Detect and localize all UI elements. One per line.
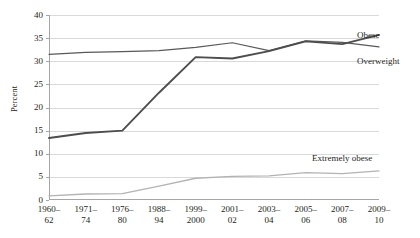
- series-label-obese: Obese: [357, 31, 380, 40]
- y-tick-label: 10: [21, 149, 43, 158]
- y-tick-label: 35: [21, 34, 43, 43]
- y-tick-mark: [46, 200, 49, 201]
- x-tick-label: 2009–10: [356, 204, 402, 225]
- line-chart: Percent 0510152025303540 1960–621971–741…: [0, 0, 420, 238]
- series-line-extremely-obese: [49, 171, 379, 196]
- series-label-extremely-obese: Extremely obese: [312, 154, 372, 163]
- y-tick-label: 40: [21, 11, 43, 20]
- plot-area: [49, 15, 379, 200]
- y-tick-label: 30: [21, 57, 43, 66]
- series-container: [49, 15, 379, 200]
- y-axis-title: Percent: [9, 69, 19, 129]
- x-tick-label-line2: 10: [356, 215, 402, 226]
- y-tick-label: 25: [21, 80, 43, 89]
- y-tick-label: 5: [21, 172, 43, 181]
- series-label-overweight: Overweight: [357, 57, 400, 66]
- x-tick-label-line1: 2009–: [356, 204, 402, 215]
- y-tick-label: 20: [21, 103, 43, 112]
- y-tick-label: 15: [21, 126, 43, 135]
- series-line-obese: [49, 35, 379, 138]
